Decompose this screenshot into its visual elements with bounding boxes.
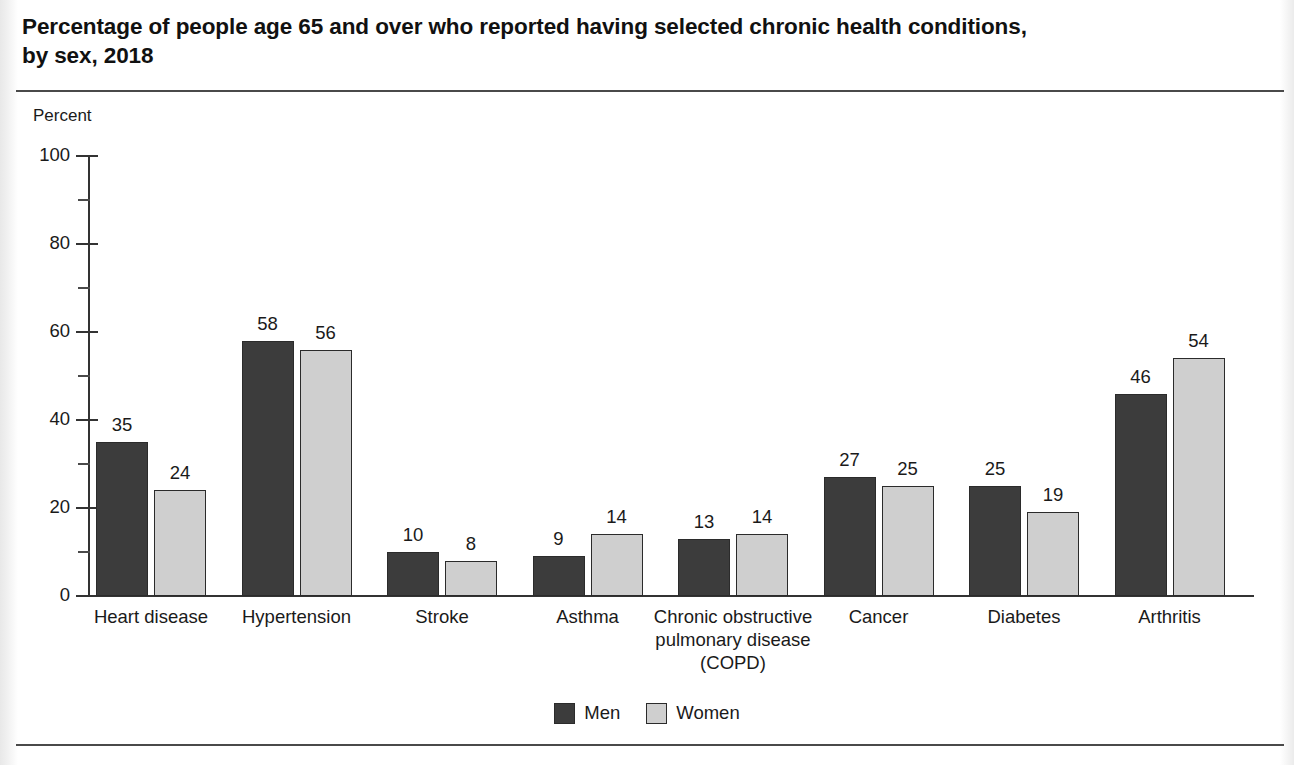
divider-bottom	[16, 744, 1284, 746]
legend-label: Men	[584, 702, 620, 724]
title-line-2: by sex, 2018	[22, 41, 1277, 70]
title-line-1: Percentage of people age 65 and over who…	[22, 12, 1277, 41]
divider-top	[16, 90, 1284, 92]
chart-legend: MenWomen	[0, 702, 1294, 724]
page-title: Percentage of people age 65 and over who…	[22, 12, 1277, 70]
legend-swatch-icon	[554, 703, 575, 724]
legend-item-women[interactable]: Women	[646, 702, 739, 724]
legend-item-men[interactable]: Men	[554, 702, 620, 724]
y-axis-unit-label: Percent	[33, 106, 92, 126]
legend-label: Women	[676, 702, 739, 724]
legend-swatch-icon	[646, 703, 667, 724]
page-background	[0, 0, 1294, 765]
